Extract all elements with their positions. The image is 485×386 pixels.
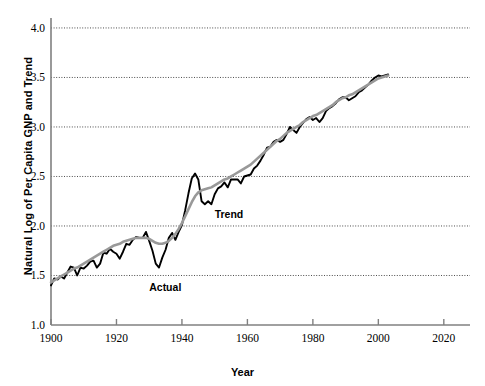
plot-area	[0, 0, 485, 386]
series-line-trend	[51, 75, 388, 282]
chart-container: Natural Log of Per Capita GNP and Trend …	[0, 0, 485, 386]
